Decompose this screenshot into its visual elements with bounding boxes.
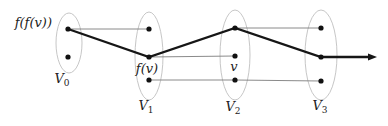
set-label-sub-V2: 2 — [235, 106, 241, 116]
iteration-path — [68, 28, 369, 57]
node-dot-v1-bottom — [146, 77, 151, 82]
node-dot-fv — [146, 54, 151, 59]
set-label-V0: V0 — [54, 71, 69, 88]
arrow-head-icon — [368, 53, 377, 60]
node-dot-v3-top — [318, 25, 323, 30]
node-dot-v2-top — [232, 25, 237, 30]
node-dot-v0-lower — [65, 54, 70, 59]
figure-canvas: f(f(v))f(v)vV0V1V2V3 — [0, 0, 388, 126]
node-dot-v3-bottom — [318, 78, 323, 83]
label-fv: f(v) — [135, 61, 158, 76]
edge-fv-v — [149, 56, 235, 57]
set-label-sub-V3: 3 — [322, 105, 328, 115]
node-dot-v3-middle — [318, 54, 323, 59]
node-dot-ffv — [65, 26, 70, 31]
set-label-sub-V0: 0 — [64, 78, 70, 88]
set-label-V3: V3 — [312, 98, 327, 115]
set-ellipse-V0 — [56, 13, 82, 73]
label-v: v — [230, 59, 238, 74]
node-dot-v — [232, 53, 237, 58]
function-iteration-diagram: f(f(v))f(v)vV0V1V2V3 — [0, 0, 388, 126]
set-label-V1: V1 — [138, 98, 153, 115]
set-label-V2: V2 — [225, 99, 240, 116]
label-ffv: f(f(v)) — [14, 15, 52, 30]
node-dot-v1-top — [146, 26, 151, 31]
node-dot-v2-bottom — [232, 77, 237, 82]
set-label-sub-V1: 1 — [148, 105, 154, 115]
